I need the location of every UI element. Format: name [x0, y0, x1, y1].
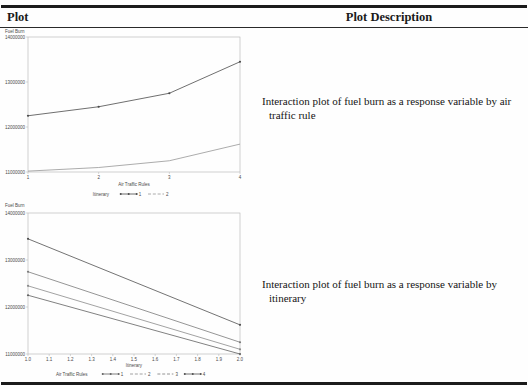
y-tick-label: 11000000 [5, 352, 25, 357]
x-tick-label: 2.0 [237, 357, 244, 362]
x-axis-label: Air Traffic Rules [118, 182, 150, 187]
legend-entry-label: 4 [203, 372, 206, 377]
data-point-marker [239, 353, 241, 355]
legend-sample-marker [110, 373, 112, 375]
y-tick-label: 11000000 [5, 170, 25, 175]
legend-sample-marker [120, 193, 122, 195]
x-tick-label: 1.3 [88, 357, 95, 362]
series-line [28, 272, 240, 343]
legend-sample-marker [184, 373, 186, 375]
y-tick-label: 12000000 [5, 305, 26, 310]
data-point-marker [239, 348, 241, 350]
data-point-marker [27, 271, 29, 273]
x-tick-label: 1.9 [216, 357, 223, 362]
data-point-marker [27, 115, 29, 117]
plot-description-2: Interaction plot of fuel burn as a respo… [262, 278, 497, 305]
data-point-marker [27, 238, 29, 240]
legend-title: Itinerary [93, 192, 110, 197]
legend-title: Air Traffic Rules [56, 372, 88, 377]
series-line [28, 295, 240, 354]
legend-entry-label: 1 [121, 372, 124, 377]
data-point-marker [168, 92, 170, 94]
series-line [28, 286, 240, 349]
data-point-marker [239, 61, 241, 63]
y-axis-label: Fuel Burn [5, 29, 25, 34]
legend-entry-label: 2 [148, 372, 151, 377]
x-tick-label: 1.4 [110, 357, 117, 362]
legend-entry-label: 1 [139, 192, 142, 197]
data-point-marker [239, 324, 241, 326]
legend-sample-marker [200, 373, 202, 375]
legend-entry-label: 3 [175, 372, 178, 377]
x-tick-label: 1.5 [131, 357, 138, 362]
legend-sample-marker [102, 373, 104, 375]
series-line [28, 62, 240, 116]
legend-sample-marker [128, 193, 130, 195]
table-top-rule [1, 5, 527, 8]
data-point-marker [239, 341, 241, 343]
x-tick-label: 1.7 [173, 357, 180, 362]
interaction-plot-by-air-traffic-rule-chart: 140000001300000012000000110000001234Fuel… [2, 28, 246, 198]
description-line: Interaction plot of fuel burn as a respo… [262, 278, 497, 292]
legend-sample-marker [136, 193, 138, 195]
description-line: Interaction plot of fuel burn as a respo… [262, 95, 511, 109]
document-page: Plot Plot Description 140000001300000012… [0, 0, 528, 389]
x-tick-label: 1.0 [25, 357, 32, 362]
y-tick-label: 13000000 [5, 258, 26, 263]
data-point-marker [27, 285, 29, 287]
y-tick-label: 14000000 [5, 211, 26, 216]
table-bottom-rule [1, 382, 527, 385]
x-tick-label: 1 [27, 175, 30, 180]
x-tick-label: 3 [168, 175, 171, 180]
y-axis-label: Fuel Burn [5, 203, 25, 208]
x-axis-label: Itinerary [126, 363, 143, 368]
x-tick-label: 1.1 [46, 357, 53, 362]
description-line: itinerary [262, 292, 497, 306]
series-line [28, 239, 240, 325]
column-header-plot-description: Plot Description [264, 10, 514, 25]
y-tick-label: 13000000 [5, 80, 26, 85]
data-point-marker [27, 294, 29, 296]
series-line [28, 144, 240, 171]
legend-entry-label: 2 [166, 192, 169, 197]
column-header-plot: Plot [7, 10, 29, 25]
interaction-plot-by-itinerary-chart: 140000001300000012000000110000001.01.11.… [2, 200, 246, 382]
x-tick-label: 2 [97, 175, 100, 180]
data-point-marker [98, 106, 100, 108]
y-tick-label: 14000000 [5, 35, 26, 40]
x-tick-label: 1.2 [67, 357, 74, 362]
y-tick-label: 12000000 [5, 125, 26, 130]
legend-sample-marker [118, 373, 120, 375]
legend-sample-marker [192, 373, 194, 375]
x-tick-label: 1.8 [194, 357, 201, 362]
plot-frame [28, 213, 240, 354]
x-tick-label: 1.6 [152, 357, 159, 362]
plot-description-1: Interaction plot of fuel burn as a respo… [262, 95, 511, 122]
x-tick-label: 4 [239, 175, 242, 180]
description-line: traffic rule [262, 109, 511, 123]
